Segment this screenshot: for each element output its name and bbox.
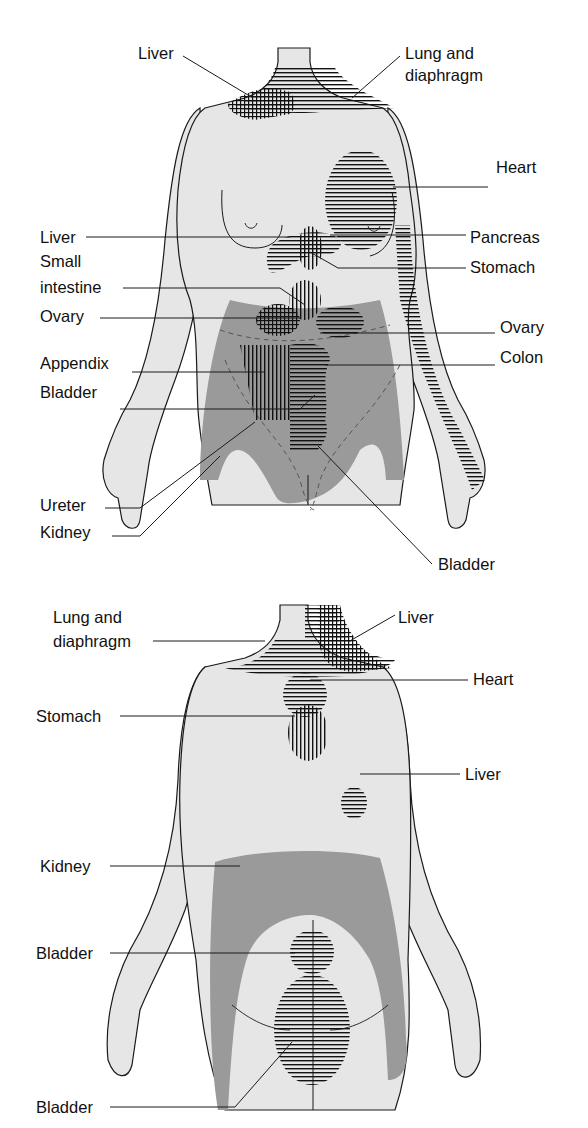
label-front-stomach: Stomach: [470, 258, 535, 276]
label-back-bladder-lower: Bladder: [36, 1098, 93, 1116]
label-back-stomach: Stomach: [36, 707, 101, 725]
label-back-bladder-upper: Bladder: [36, 944, 93, 962]
label-front-pancreas: Pancreas: [470, 228, 540, 246]
label-back-lung-diaphragm-line1: Lung and: [53, 608, 122, 626]
label-front-ovary-right: Ovary: [500, 318, 544, 336]
label-front-ureter: Ureter: [40, 496, 86, 514]
label-back-liver: Liver: [465, 765, 501, 783]
label-front-liver: Liver: [40, 228, 76, 246]
label-back-heart: Heart: [473, 670, 513, 688]
referred-pain-diagram: Liver Lung and diaphragm Heart Liver Pan…: [0, 0, 588, 1128]
label-front-heart: Heart: [496, 158, 536, 176]
label-front-colon: Colon: [500, 348, 543, 366]
label-back-lung-diaphragm-line2: diaphragm: [53, 632, 131, 650]
label-front-appendix: Appendix: [40, 354, 109, 372]
label-front-ovary-left: Ovary: [40, 307, 84, 325]
label-front-lung-diaphragm-line2: diaphragm: [405, 66, 483, 84]
label-front-small-intestine-line2: intestine: [40, 278, 101, 296]
label-front-kidney: Kidney: [40, 523, 90, 541]
label-front-bladder-lower: Bladder: [438, 555, 495, 573]
label-front-small-intestine-line1: Small: [40, 252, 81, 270]
label-back-liver-neck: Liver: [398, 608, 434, 626]
label-front-liver-neck: Liver: [138, 44, 174, 62]
label-front-lung-diaphragm-line1: Lung and: [405, 44, 474, 62]
label-back-kidney: Kidney: [40, 857, 90, 875]
label-front-bladder-upper: Bladder: [40, 383, 97, 401]
